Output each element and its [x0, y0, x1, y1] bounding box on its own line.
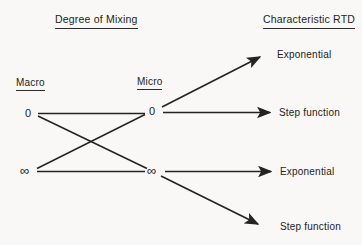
rtd-label-exponential-lower: Exponential	[280, 166, 334, 177]
arrow-micro0-exponential	[162, 57, 260, 107]
micro-zero-node: 0	[149, 106, 155, 117]
rtd-label-step-function-upper: Step function	[279, 107, 340, 118]
macro-zero-node: 0	[25, 108, 31, 119]
degree-of-mixing-title: Degree of Mixing	[55, 13, 138, 29]
rtd-label-exponential-top: Exponential	[277, 49, 331, 60]
arrow-microinf-stepfunction	[161, 176, 258, 224]
rtd-label-step-function-bottom: Step function	[280, 221, 341, 232]
characteristic-rtd-title: Characteristic RTD	[263, 13, 355, 29]
micro-infinity-node: ∞	[147, 164, 156, 177]
mixing-rtd-diagram: Degree of Mixing Characteristic RTD Macr…	[0, 0, 362, 245]
diagram-lines	[0, 0, 362, 245]
macro-column-label: Macro	[16, 77, 45, 91]
micro-column-label: Micro	[137, 76, 162, 90]
macro-infinity-node: ∞	[20, 164, 29, 177]
